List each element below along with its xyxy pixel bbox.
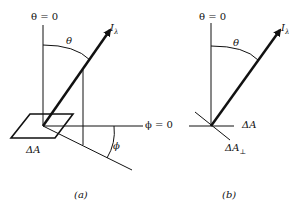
intensity-ray — [43, 30, 110, 126]
caption-a: (a) — [74, 190, 88, 200]
intensity-subscript: λ — [285, 28, 289, 36]
area-label-a: ΔA — [26, 145, 40, 155]
caption-b: (b) — [222, 190, 236, 200]
projected-area-label: ΔA⊥ — [225, 143, 246, 156]
projected-area-subscript: ⊥ — [239, 148, 246, 156]
theta-label-a: θ — [66, 36, 72, 46]
phi-label: ϕ — [113, 141, 120, 151]
zenith-label-a: θ = 0 — [31, 12, 58, 22]
theta-arc — [211, 46, 258, 60]
area-element — [11, 114, 73, 138]
azimuth-ref-label: ϕ = 0 — [145, 120, 173, 130]
zenith-label-b: θ = 0 — [199, 12, 226, 22]
intensity-subscript: λ — [114, 28, 118, 36]
radiation-geometry-diagram — [0, 0, 295, 212]
intensity-ray — [211, 30, 280, 126]
theta-label-b: θ — [233, 38, 239, 48]
intensity-label-b: Iλ — [281, 23, 289, 36]
theta-arc — [43, 45, 90, 60]
projected-area-symbol: ΔA — [225, 142, 239, 153]
area-label-b: ΔA — [242, 120, 256, 130]
intensity-label-a: Iλ — [110, 23, 118, 36]
